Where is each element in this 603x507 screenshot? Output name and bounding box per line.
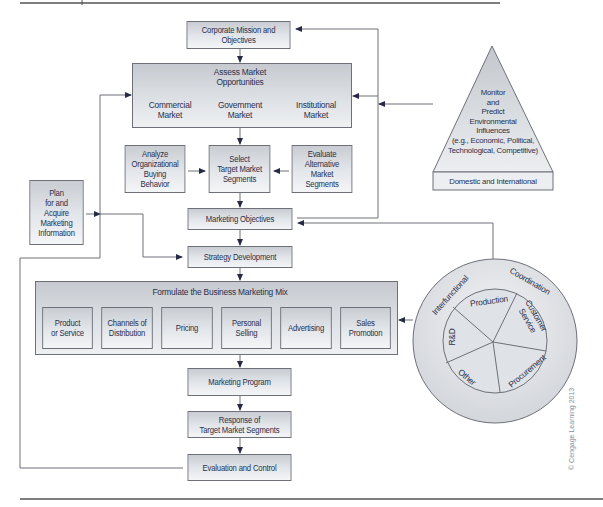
mix-item-pricing: Pricing xyxy=(161,307,213,349)
mix-item-label: Channels of Distribution xyxy=(107,318,146,338)
evaluate-label: Evaluate Alternative Market Segments xyxy=(305,149,339,189)
plan-label: Plan for and Acquire Marketing Informati… xyxy=(38,188,75,238)
mix-item-label: Sales Promotion xyxy=(349,318,382,338)
mix-item-channels: Channels of Distribution xyxy=(101,307,153,349)
mix-item-sales-promotion: Sales Promotion xyxy=(340,307,391,349)
government-market: Government Market xyxy=(205,100,275,120)
mix-item-label: Personal Selling xyxy=(232,318,261,338)
commercial-market: Commercial Market xyxy=(140,100,200,120)
strategy-development-box: Strategy Development xyxy=(188,246,293,268)
institutional-market: Institutional Market xyxy=(285,100,347,120)
corporate-mission-label: Corporate Mission and Objectives xyxy=(202,25,276,45)
monitor-label: Monitor and Predict Environmental Influe… xyxy=(447,88,539,155)
domestic-label: Domestic and International xyxy=(433,177,553,187)
strategy-label: Strategy Development xyxy=(204,252,277,262)
evaluation-label: Evaluation and Control xyxy=(203,463,277,473)
evaluate-alternative-box: Evaluate Alternative Market Segments xyxy=(292,145,353,193)
mix-item-label: Product or Service xyxy=(51,318,84,338)
assess-title: Assess Market Opportunities xyxy=(205,67,275,87)
marketing-mix-title: Formulate the Business Marketing Mix xyxy=(120,287,320,297)
marketing-objectives-box: Marketing Objectives xyxy=(188,208,293,230)
marketing-program-box: Marketing Program xyxy=(188,368,292,396)
mix-item-advertising: Advertising xyxy=(280,307,332,349)
program-label: Marketing Program xyxy=(208,377,270,387)
corporate-mission-box: Corporate Mission and Objectives xyxy=(187,21,291,49)
segment-rnd: R&D xyxy=(447,322,457,352)
select-label: Select Target Market Segments xyxy=(217,154,262,184)
analyze-buying-box: Analyze Organizational Buying Behavior xyxy=(125,145,186,193)
response-box: Response of Target Market Segments xyxy=(188,411,292,438)
mix-item-personal-selling: Personal Selling xyxy=(221,307,272,349)
evaluation-control-box: Evaluation and Control xyxy=(188,454,292,481)
mix-item-label: Pricing xyxy=(176,323,198,333)
response-label: Response of Target Market Segments xyxy=(200,415,280,435)
select-target-box: Select Target Market Segments xyxy=(209,145,271,193)
copyright-notice: © Cengage Learning 2013 xyxy=(568,388,575,470)
analyze-label: Analyze Organizational Buying Behavior xyxy=(131,149,178,189)
mix-item-product: Product or Service xyxy=(42,307,93,349)
plan-information-box: Plan for and Acquire Marketing Informati… xyxy=(29,180,83,245)
objectives-label: Marketing Objectives xyxy=(206,214,274,224)
mix-item-label: Advertising xyxy=(288,323,324,333)
